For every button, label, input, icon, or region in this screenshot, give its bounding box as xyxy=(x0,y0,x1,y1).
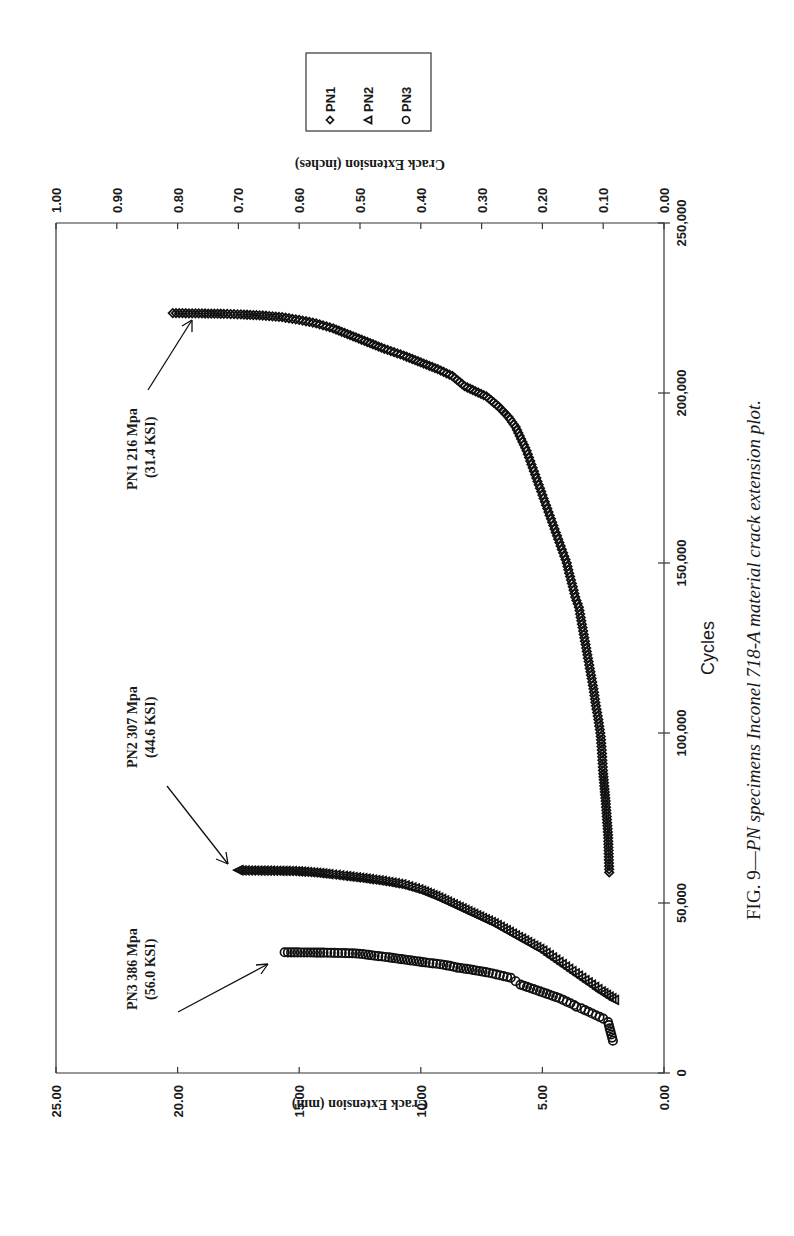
inch-tick-label: 0.90 xyxy=(110,188,125,213)
annotation-pn1: PN1 216 Mpa (31.4 KSI) xyxy=(125,320,192,490)
inches-axis-title: Crack Extension (inches) xyxy=(295,156,445,172)
cycles-tick-label: 250,000 xyxy=(674,200,689,247)
cycles-tick-label: 200,000 xyxy=(674,370,689,417)
annotation-pn1-arrow xyxy=(148,320,192,390)
cycles-axis-title: Cycles xyxy=(698,621,718,675)
mm-axis-title: Crack Extension (mm) xyxy=(292,1096,428,1112)
data-series-layer xyxy=(169,309,619,1045)
series-pn1 xyxy=(169,309,614,877)
cycles-axis-ticks: 050,000100,000150,000200,000250,000 xyxy=(658,200,689,1077)
cycles-tick-label: 150,000 xyxy=(674,540,689,587)
annotation-pn2: PN2 307 Mpa (44.6 KSI) xyxy=(125,686,228,864)
inch-tick-label: 0.20 xyxy=(535,188,550,213)
caption-prefix: FIG. 9— xyxy=(743,850,764,920)
caption-italic: PN specimens Inconel 718-A material crac… xyxy=(743,400,764,852)
inch-tick-label: 0.10 xyxy=(596,188,611,213)
inch-tick-label: 1.00 xyxy=(49,188,64,213)
inch-tick-label: 0.50 xyxy=(353,188,368,213)
mm-tick-label: 0.00 xyxy=(657,1085,672,1110)
cycles-tick-label: 100,000 xyxy=(674,710,689,757)
legend: PN1PN2PN3 xyxy=(306,53,431,131)
annotation-pn3: PN3 386 Mpa (56.0 KSI) xyxy=(125,928,268,1012)
cycles-tick-label: 50,000 xyxy=(674,883,689,923)
inch-tick-label: 0.60 xyxy=(292,188,307,213)
inch-tick-label: 0.70 xyxy=(231,188,246,213)
inch-tick-label: 0.30 xyxy=(475,188,490,213)
crack-extension-figure: 0.005.0010.0015.0020.0025.00 0.000.100.2… xyxy=(0,0,794,1236)
mm-tick-label: 20.00 xyxy=(171,1085,186,1118)
mm-tick-label: 25.00 xyxy=(49,1085,64,1118)
mm-tick-label: 5.00 xyxy=(535,1085,550,1110)
annotation-pn2-line1: PN2 307 Mpa xyxy=(125,686,140,768)
cycles-tick-label: 0 xyxy=(674,1069,689,1076)
annotation-pn1-line2: (31.4 KSI) xyxy=(143,416,159,478)
annotation-pn1-line1: PN1 216 Mpa xyxy=(125,408,140,490)
annotation-pn3-arrow xyxy=(178,964,268,1012)
inch-tick-label: 0.40 xyxy=(414,188,429,213)
annotation-pn2-line2: (44.6 KSI) xyxy=(143,696,159,758)
inch-tick-label: 0.80 xyxy=(171,188,186,213)
legend-label: PN3 xyxy=(399,87,414,112)
figure-caption: FIG. 9—PN specimens Inconel 718-A materi… xyxy=(743,400,764,920)
annotation-pn3-line2: (56.0 KSI) xyxy=(143,938,159,1000)
legend-label: PN1 xyxy=(323,87,338,112)
annotation-pn3-line1: PN3 386 Mpa xyxy=(125,928,140,1010)
annotation-pn2-arrow xyxy=(167,786,228,864)
legend-label: PN2 xyxy=(361,87,376,112)
inch-tick-label: 0.00 xyxy=(657,188,672,213)
series-pn2 xyxy=(234,866,618,1004)
